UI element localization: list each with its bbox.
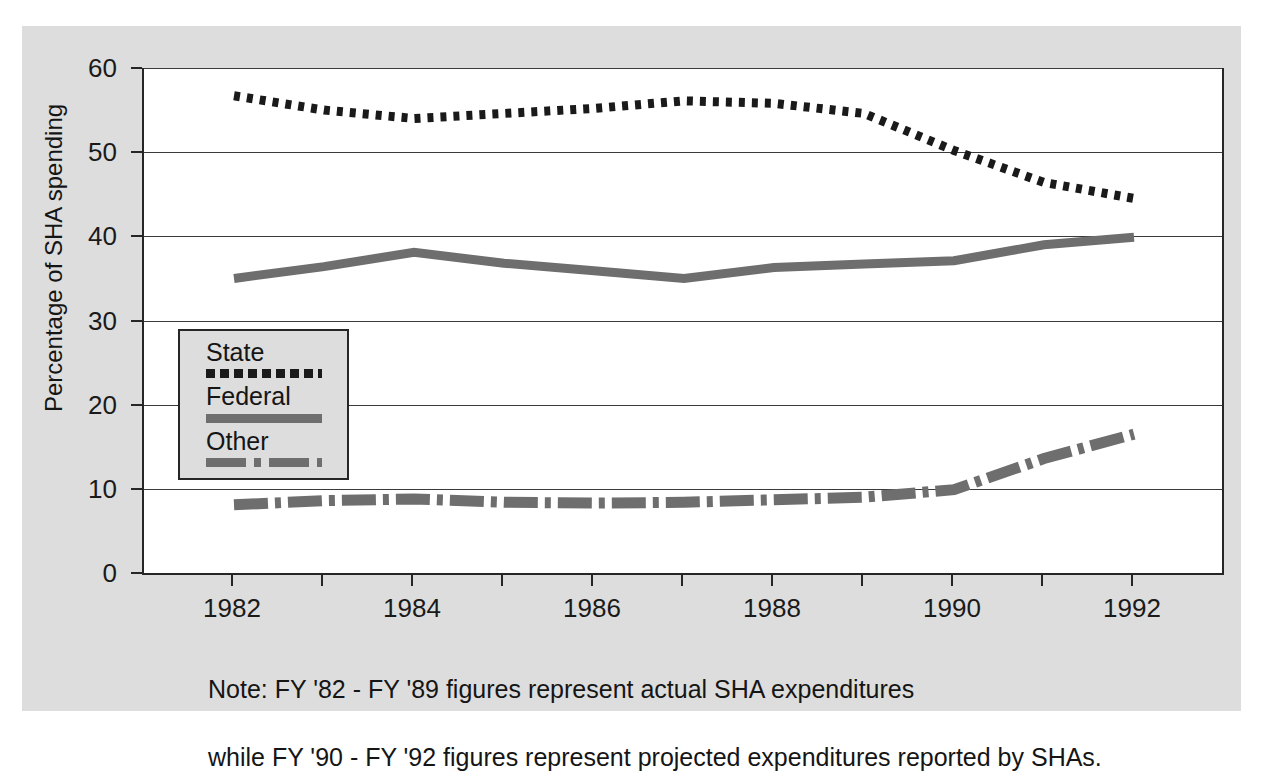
chart-figure: Percentage of SHA spending 0102030405060… xyxy=(22,26,1241,711)
x-tick-label: 1982 xyxy=(203,595,261,621)
x-tick-mark xyxy=(1041,575,1043,586)
x-tick-mark xyxy=(591,575,593,586)
y-tick-mark xyxy=(131,404,142,406)
legend-label-federal: Federal xyxy=(206,383,347,409)
series-line-federal xyxy=(234,237,1134,278)
series-layer xyxy=(144,68,1224,573)
x-tick-mark xyxy=(771,575,773,586)
legend-swatch-other-icon xyxy=(206,458,322,467)
legend-label-state: State xyxy=(206,339,347,365)
y-tick-mark xyxy=(131,320,142,322)
y-tick-mark xyxy=(131,488,142,490)
legend-entry-other: Other xyxy=(206,428,347,467)
y-tick-label: 40 xyxy=(37,223,117,249)
x-tick-mark xyxy=(861,575,863,586)
y-tick-mark xyxy=(131,67,142,69)
x-tick-label: 1990 xyxy=(923,595,981,621)
x-tick-mark xyxy=(1131,575,1133,586)
x-tick-mark xyxy=(231,575,233,586)
x-tick-label: 1984 xyxy=(383,595,441,621)
legend-swatch-federal-icon xyxy=(206,414,322,423)
x-tick-label: 1988 xyxy=(743,595,801,621)
chart-note: Note: FY '82 - FY '89 figures represent … xyxy=(208,638,1102,775)
y-tick-mark xyxy=(131,235,142,237)
y-tick-label: 0 xyxy=(37,560,117,586)
legend-entry-state: State xyxy=(206,339,347,378)
plot-area xyxy=(142,68,1224,575)
x-tick-mark xyxy=(681,575,683,586)
y-tick-label: 60 xyxy=(37,55,117,81)
legend-label-other: Other xyxy=(206,428,347,454)
series-line-state xyxy=(234,96,1134,199)
y-tick-label: 20 xyxy=(37,392,117,418)
plot-right-border xyxy=(1222,68,1224,575)
x-tick-mark xyxy=(321,575,323,586)
y-tick-label: 50 xyxy=(37,139,117,165)
x-tick-mark xyxy=(951,575,953,586)
y-tick-label: 10 xyxy=(37,476,117,502)
y-tick-label: 30 xyxy=(37,308,117,334)
y-tick-mark xyxy=(131,151,142,153)
chart-legend: State Federal Other xyxy=(178,329,349,480)
legend-swatch-state-icon xyxy=(206,369,322,378)
y-tick-mark xyxy=(131,572,142,574)
legend-entry-federal: Federal xyxy=(206,383,347,422)
x-tick-mark xyxy=(501,575,503,586)
x-tick-label: 1992 xyxy=(1103,595,1161,621)
chart-note-line-1: Note: FY '82 - FY '89 figures represent … xyxy=(208,672,1102,706)
x-tick-label: 1986 xyxy=(563,595,621,621)
chart-note-line-2: while FY '90 - FY '92 figures represent … xyxy=(208,740,1102,774)
x-tick-mark xyxy=(411,575,413,586)
series-line-other xyxy=(234,434,1134,505)
